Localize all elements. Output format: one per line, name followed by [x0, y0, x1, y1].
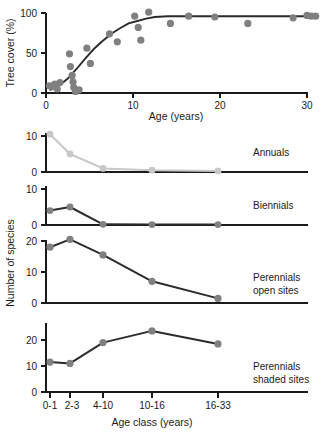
figure-canvas: 100 50 0 0 10 20 30 Tree cover (%) Age (… [0, 0, 330, 437]
annuals-point [47, 131, 54, 138]
perennials-open-panel-label-line1: Perennials [253, 272, 300, 283]
annuals-point [67, 151, 74, 158]
tree-cover-point [135, 24, 142, 31]
tree-cover-xtick-label-10: 10 [127, 100, 139, 111]
perennials-open-ytick-label-20: 20 [26, 236, 38, 247]
tree-cover-x-axis-title: Age (years) [149, 110, 203, 122]
biennials-point [47, 207, 54, 214]
perennials-open-series-line [50, 239, 218, 298]
perennials-open-point [46, 244, 53, 251]
tree-cover-point [66, 50, 73, 57]
perennials-shaded-panel-label-line2: shaded sites [253, 374, 309, 385]
tree-cover-xtick-label-0: 0 [43, 100, 49, 111]
perennials-open-point [66, 236, 73, 243]
perennials-shaded-point [148, 327, 155, 334]
tree-cover-point [312, 13, 319, 20]
annuals-ytick-label-0: 0 [31, 167, 37, 178]
tree-cover-point [67, 63, 74, 70]
perennials-shaded-point [214, 340, 221, 347]
perennials-shaded-point [46, 359, 53, 366]
tree-cover-point [54, 85, 61, 92]
tree-cover-point [76, 86, 83, 93]
category-label-10-16: 10-16 [139, 400, 165, 411]
annuals-point-group [47, 131, 222, 175]
tree-cover-ytick-label-0: 0 [31, 88, 37, 99]
tree-cover-point [114, 38, 121, 45]
tree-cover-point [290, 14, 297, 21]
tree-cover-y-axis-title: Tree cover (%) [4, 18, 16, 87]
tree-cover-fit-curve [50, 16, 315, 90]
panel-perennials-shaded: 20 10 0 Perennials shaded sites 0-1 2-3 … [26, 323, 309, 428]
perennials-open-panel-label-line2: open sites [253, 285, 299, 296]
perennials-shaded-ytick-label-10: 10 [26, 361, 38, 372]
tree-cover-point [131, 13, 138, 20]
biennials-point [149, 221, 156, 228]
tree-cover-point [83, 45, 90, 52]
biennials-ytick-label-10: 10 [26, 184, 38, 195]
perennials-shaded-panel-label-line1: Perennials [253, 361, 300, 372]
bottom-x-axis-title: Age class (years) [111, 416, 192, 428]
perennials-shaded-ytick-label-0: 0 [31, 387, 37, 398]
biennials-ytick-label-0: 0 [31, 220, 37, 231]
annuals-point [215, 168, 222, 175]
tree-cover-point [56, 79, 63, 86]
panel-tree-cover: 100 50 0 0 10 20 30 Tree cover (%) Age (… [4, 8, 319, 122]
tree-cover-point [211, 13, 218, 20]
tree-cover-point [69, 72, 76, 79]
category-label-4-10: 4-10 [93, 400, 113, 411]
perennials-shaded-ytick-label-20: 20 [26, 335, 38, 346]
perennials-open-ytick-label-10: 10 [26, 267, 38, 278]
tree-cover-ytick-label-100: 100 [20, 8, 37, 19]
annuals-point [100, 165, 107, 172]
tree-cover-ytick-label-50: 50 [26, 48, 38, 59]
panel-annuals: 10 0 Annuals [26, 131, 308, 178]
perennials-shaded-point-group [46, 327, 221, 367]
biennials-panel-label: Biennials [253, 200, 294, 211]
tree-cover-xtick-label-20: 20 [214, 100, 226, 111]
annuals-ytick-label-10: 10 [26, 131, 38, 142]
annuals-series-line [50, 134, 218, 171]
tree-cover-point [167, 20, 174, 27]
tree-cover-point [106, 30, 113, 37]
biennials-series-line [50, 207, 218, 225]
tree-cover-point [244, 20, 251, 27]
perennials-open-ytick-label-0: 0 [31, 298, 37, 309]
perennials-shaded-point [99, 339, 106, 346]
panel-biennials: 10 0 Biennials [26, 184, 308, 231]
perennials-shaded-series-line [50, 331, 218, 364]
tree-cover-point [145, 9, 152, 16]
shared-y-axis-title: Number of species [4, 219, 16, 307]
tree-cover-point [185, 13, 192, 20]
tree-cover-point [87, 60, 94, 67]
annuals-point [149, 167, 156, 174]
biennials-point [67, 204, 74, 211]
category-label-0-1: 0-1 [43, 400, 58, 411]
annuals-panel-label: Annuals [253, 147, 289, 158]
tree-cover-point-group [46, 9, 319, 95]
perennials-open-point [214, 295, 221, 302]
perennials-open-point [148, 278, 155, 285]
perennials-shaded-point [66, 360, 73, 367]
category-label-2-3: 2-3 [65, 400, 80, 411]
perennials-open-point [99, 251, 106, 258]
panel-perennials-open: 20 10 0 Perennials open sites [26, 236, 308, 309]
succession-figure: 100 50 0 0 10 20 30 Tree cover (%) Age (… [0, 0, 330, 437]
tree-cover-xtick-label-30: 30 [301, 100, 313, 111]
category-label-16-33: 16-33 [205, 400, 231, 411]
biennials-point [100, 221, 107, 228]
tree-cover-point [137, 37, 144, 44]
biennials-point [215, 221, 222, 228]
